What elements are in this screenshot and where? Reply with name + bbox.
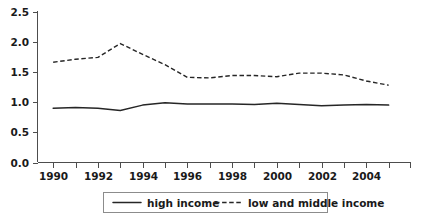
x-tick-label: 1998 — [218, 170, 247, 182]
legend-label-high-income: high income — [147, 197, 219, 209]
legend: high income low and middle income — [104, 193, 385, 213]
y-axis: 0.00.51.01.52.02.5 — [10, 6, 37, 169]
y-axis-ticks — [33, 13, 38, 164]
series-high-income — [53, 103, 388, 111]
y-tick-label: 2.0 — [10, 36, 29, 48]
plot-area — [53, 44, 388, 111]
chart-canvas: 0.00.51.01.52.02.5 199019921994199619982… — [0, 0, 426, 224]
y-tick-label: 1.0 — [10, 96, 29, 108]
x-tick-label: 2004 — [352, 170, 381, 182]
line-chart: 0.00.51.01.52.02.5 199019921994199619982… — [0, 0, 426, 224]
x-tick-label: 2002 — [308, 170, 337, 182]
x-axis: 19901992199419961998200020022004 — [38, 163, 412, 183]
x-tick-label: 1996 — [173, 170, 202, 182]
x-tick-label: 1992 — [84, 170, 113, 182]
y-tick-label: 2.5 — [10, 6, 29, 18]
y-tick-label: 0.0 — [10, 157, 29, 169]
x-tick-label: 1994 — [129, 170, 158, 182]
x-axis-ticks — [54, 163, 411, 168]
x-tick-label: 1990 — [39, 170, 68, 182]
series-low-and-middle-income — [53, 44, 388, 86]
x-axis-tick-labels: 19901992199419961998200020022004 — [39, 170, 381, 182]
y-tick-label: 0.5 — [10, 126, 29, 138]
y-axis-tick-labels: 0.00.51.01.52.02.5 — [10, 6, 29, 169]
y-tick-label: 1.5 — [10, 66, 29, 78]
legend-label-low-and-middle-income: low and middle income — [248, 197, 384, 209]
x-tick-label: 2000 — [263, 170, 292, 182]
